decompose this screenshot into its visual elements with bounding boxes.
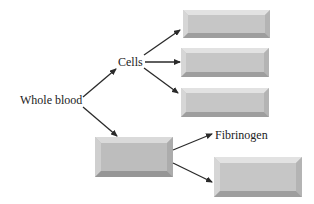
- cells-answer-box-2: [181, 48, 269, 77]
- cells-answer-box-3: [181, 88, 269, 117]
- arrow-cells-to-box-1: [144, 30, 180, 55]
- arrow-wholeblood-to-cells: [83, 69, 116, 97]
- fibrinogen-label: Fibrinogen: [215, 129, 268, 141]
- serum-answer-box: [214, 157, 302, 197]
- arrow-plasma-to-fibrinogen: [173, 134, 212, 150]
- plasma-answer-box: [95, 137, 173, 177]
- whole-blood-label: Whole blood: [20, 94, 82, 106]
- arrow-plasma-to-serum: [173, 163, 212, 182]
- arrow-cells-to-box-3: [144, 68, 178, 93]
- cells-answer-box-1: [183, 10, 270, 38]
- cells-label: Cells: [118, 56, 143, 68]
- arrow-wholeblood-to-plasma: [83, 107, 117, 136]
- blood-fractionation-diagram: Whole blood Cells Fibrinogen: [0, 0, 314, 204]
